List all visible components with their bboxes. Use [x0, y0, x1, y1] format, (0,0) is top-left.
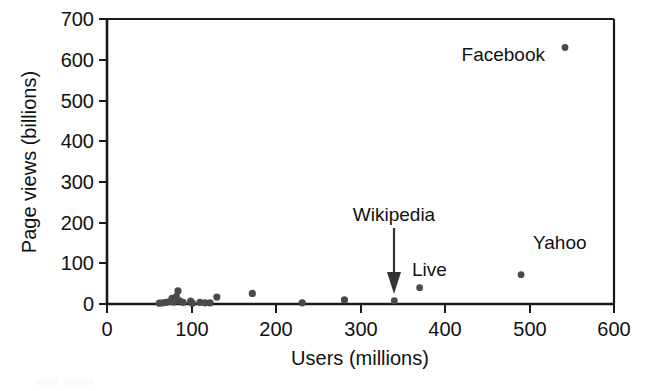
y-tick-label-600: 600	[61, 49, 94, 71]
data-point-14	[206, 299, 213, 306]
y-tick-label-300: 300	[61, 171, 94, 193]
arrow-head-icon	[387, 272, 401, 294]
x-tick-label-600: 600	[597, 318, 630, 340]
point-label-yahoo: Yahoo	[533, 232, 587, 253]
scan-artifact-2	[64, 379, 94, 385]
data-point-15	[213, 293, 220, 300]
y-tick-label-700: 700	[61, 8, 94, 30]
data-point-16	[249, 290, 256, 297]
x-tick-label-200: 200	[259, 318, 292, 340]
x-tick-label-0: 0	[101, 318, 112, 340]
y-tick-label-400: 400	[61, 130, 94, 152]
data-point-11	[189, 300, 196, 307]
x-tick-label-300: 300	[344, 318, 377, 340]
data-point-yahoo	[518, 271, 525, 278]
x-axis-tick-labels: 0 100 200 300 400 500 600	[101, 318, 630, 340]
scatter-plot-svg: 0 100 200 300 400 500 600 700 0 100 200 …	[0, 0, 649, 391]
data-points-layer	[156, 44, 569, 307]
data-point-7	[174, 287, 181, 294]
x-axis-title: Users (millions)	[291, 347, 429, 369]
x-tick-label-100: 100	[175, 318, 208, 340]
y-tick-label-500: 500	[61, 90, 94, 112]
y-axis-tick-labels: 0 100 200 300 400 500 600 700	[61, 8, 94, 315]
point-label-facebook: Facebook	[462, 44, 546, 65]
y-tick-label-100: 100	[61, 252, 94, 274]
data-point-18	[341, 296, 348, 303]
wikipedia-annotation-arrow	[387, 228, 401, 294]
data-point-live	[416, 284, 423, 291]
point-labels-layer: Facebook Wikipedia Live Yahoo	[353, 44, 587, 280]
point-label-wikipedia: Wikipedia	[353, 204, 436, 225]
y-tick-label-0: 0	[83, 293, 94, 315]
point-label-live: Live	[412, 259, 447, 280]
x-tick-label-400: 400	[428, 318, 461, 340]
scan-artifact-marks	[36, 379, 94, 385]
y-axis-title: Page views (billions)	[18, 71, 40, 253]
data-point-17	[299, 299, 306, 306]
data-point-9	[179, 299, 186, 306]
scan-artifact-1	[36, 379, 58, 385]
chart-figure: 0 100 200 300 400 500 600 700 0 100 200 …	[0, 0, 649, 391]
data-point-wikipedia	[391, 297, 398, 304]
data-point-facebook	[562, 44, 569, 51]
x-tick-label-500: 500	[513, 318, 546, 340]
y-tick-label-200: 200	[61, 212, 94, 234]
